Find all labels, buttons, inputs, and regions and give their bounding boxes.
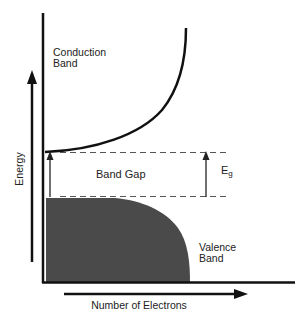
band-gap-label: Band Gap: [96, 168, 146, 180]
valence-band-region: [46, 198, 190, 282]
x-axis-label: Number of Electrons: [91, 299, 187, 311]
band-gap-diagram: Conduction Band Band Gap Eg Valence Band…: [0, 0, 307, 324]
energy-arrow-head: [27, 70, 37, 84]
eg-label: Eg: [221, 164, 233, 178]
electrons-arrow-head: [234, 289, 248, 299]
y-axis-label: Energy: [13, 152, 25, 186]
eg-subscript: g: [228, 169, 232, 178]
conduction-band-label-line2: Band: [53, 57, 78, 69]
valence-band-label-line2: Band: [199, 252, 224, 264]
eg-main: E: [221, 164, 228, 176]
